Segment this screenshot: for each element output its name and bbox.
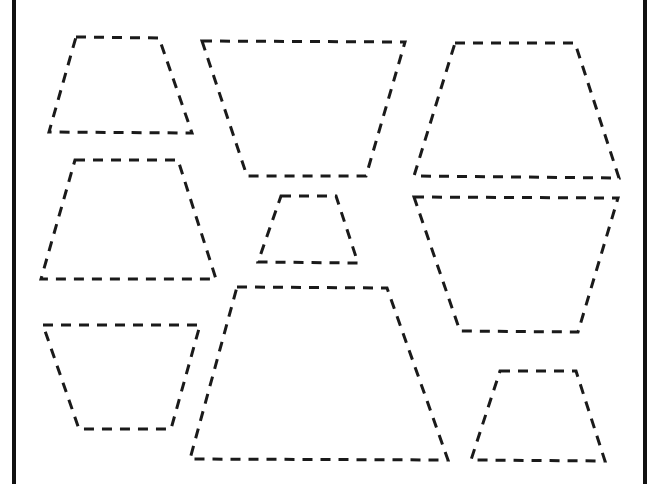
dashed-trapezoids-group bbox=[41, 37, 619, 461]
tracing-worksheet bbox=[0, 0, 651, 484]
dashed-trapezoid-9 bbox=[471, 371, 605, 461]
dashed-trapezoid-3 bbox=[414, 43, 619, 178]
dashed-trapezoid-7 bbox=[43, 325, 200, 429]
dashed-trapezoid-5 bbox=[258, 196, 358, 263]
dashed-trapezoid-8 bbox=[190, 287, 448, 460]
dashed-trapezoid-2 bbox=[202, 41, 405, 176]
dashed-trapezoid-4 bbox=[41, 160, 216, 279]
dashed-trapezoid-6 bbox=[414, 197, 618, 332]
dashed-trapezoid-1 bbox=[49, 37, 192, 133]
